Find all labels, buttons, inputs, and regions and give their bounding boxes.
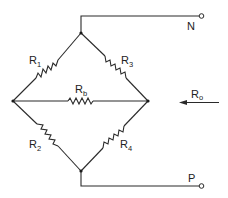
- resistor-r1: [13, 33, 81, 101]
- resistor-r2: [13, 101, 81, 171]
- bridge-circuit-diagram: R1 R3 Rb R2 R4 Ro N P: [0, 0, 228, 198]
- node-bottom-icon: [79, 169, 82, 172]
- resistor-rb: [13, 98, 148, 104]
- resistor-r2-zigzag-icon: [37, 124, 58, 146]
- node-left-icon: [11, 99, 14, 102]
- label-terminal-p: P: [188, 172, 195, 184]
- resistor-r3: [81, 33, 148, 101]
- terminal-p-icon[interactable]: [199, 184, 204, 189]
- label-terminal-n: N: [187, 20, 195, 32]
- resistor-r4: [81, 101, 148, 171]
- node-top-icon: [79, 31, 82, 34]
- node-right-icon: [146, 99, 149, 102]
- bottom-lead: [81, 171, 204, 188]
- label-r1: R1: [29, 54, 41, 69]
- label-r4: R4: [120, 138, 132, 153]
- label-rb: Rb: [75, 83, 87, 98]
- label-r0: Ro: [191, 88, 203, 102]
- terminal-n-icon[interactable]: [199, 14, 204, 19]
- top-lead: [81, 14, 204, 33]
- resistor-rb-zigzag-icon: [68, 98, 93, 104]
- label-r2: R2: [29, 138, 41, 153]
- label-r3: R3: [121, 54, 133, 69]
